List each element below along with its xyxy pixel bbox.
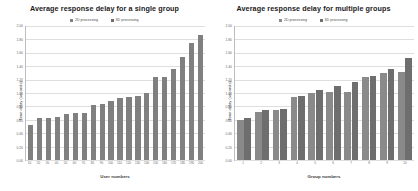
- x-axis-tick-label: 80: [88, 161, 97, 173]
- bar-group[interactable]: [98, 26, 107, 160]
- bar-group[interactable]: [196, 26, 205, 160]
- x-axis-tick-label: 8: [360, 161, 378, 173]
- bar[interactable]: [380, 73, 387, 160]
- x-axis-tick-label: 2: [252, 161, 270, 173]
- plot-canvas-2: [234, 26, 414, 161]
- bar[interactable]: [91, 105, 96, 160]
- bar[interactable]: [144, 93, 149, 160]
- x-axis-tick-label: 6: [324, 161, 342, 173]
- legend-item[interactable]: 3D processing: [320, 18, 348, 22]
- legend-item[interactable]: 3D processing: [111, 18, 139, 22]
- x-axis-tick-label: 90: [97, 161, 106, 173]
- bar[interactable]: [153, 77, 158, 160]
- bar-group[interactable]: [133, 26, 142, 160]
- bar-group[interactable]: [360, 26, 378, 160]
- bar[interactable]: [262, 110, 269, 160]
- bar-group[interactable]: [62, 26, 71, 160]
- bar[interactable]: [237, 120, 244, 160]
- bar-group[interactable]: [271, 26, 289, 160]
- x-axis-tick-label: 150: [151, 161, 160, 173]
- bar-group[interactable]: [325, 26, 343, 160]
- bar-group[interactable]: [178, 26, 187, 160]
- bar-series-2: [235, 26, 414, 160]
- bar-group[interactable]: [107, 26, 116, 160]
- bar[interactable]: [316, 90, 323, 160]
- bar[interactable]: [405, 58, 412, 160]
- bar[interactable]: [73, 113, 78, 160]
- bar-group[interactable]: [169, 26, 178, 160]
- bar[interactable]: [273, 110, 280, 160]
- bar-group[interactable]: [124, 26, 133, 160]
- bar[interactable]: [198, 35, 203, 160]
- bar[interactable]: [334, 86, 341, 160]
- bar-group[interactable]: [116, 26, 125, 160]
- bar[interactable]: [280, 109, 287, 160]
- x-axis-tick-label: 20: [34, 161, 43, 173]
- bar-group[interactable]: [53, 26, 62, 160]
- bar[interactable]: [398, 72, 405, 160]
- bar[interactable]: [189, 43, 194, 160]
- y-axis-tick-label: 0.80: [16, 105, 23, 109]
- bar[interactable]: [135, 96, 140, 160]
- bar[interactable]: [244, 118, 251, 160]
- bar[interactable]: [298, 96, 305, 160]
- bar-group[interactable]: [151, 26, 160, 160]
- plot-canvas: [25, 26, 205, 161]
- chart-legend-2: 2D processing3D processing: [209, 18, 418, 22]
- bar-group[interactable]: [253, 26, 271, 160]
- bar-group[interactable]: [71, 26, 80, 160]
- bar[interactable]: [82, 113, 87, 160]
- legend-label: 3D processing: [325, 18, 348, 22]
- bar-group[interactable]: [342, 26, 360, 160]
- bar[interactable]: [126, 97, 131, 160]
- bar[interactable]: [180, 57, 185, 160]
- bar-group[interactable]: [160, 26, 169, 160]
- bar-group[interactable]: [35, 26, 44, 160]
- x-axis-tick-label: 100: [106, 161, 115, 173]
- bar-group[interactable]: [289, 26, 307, 160]
- x-axis-tick-label: 40: [52, 161, 61, 173]
- bar-group[interactable]: [378, 26, 396, 160]
- bar-group[interactable]: [142, 26, 151, 160]
- bar-group[interactable]: [80, 26, 89, 160]
- legend-item[interactable]: 2D processing: [279, 18, 307, 22]
- bar[interactable]: [46, 118, 51, 160]
- bar-group[interactable]: [187, 26, 196, 160]
- bar[interactable]: [37, 118, 42, 160]
- bar-group[interactable]: [89, 26, 98, 160]
- bar[interactable]: [55, 117, 60, 160]
- bar[interactable]: [308, 93, 315, 160]
- bar[interactable]: [326, 92, 333, 160]
- bar-group[interactable]: [396, 26, 414, 160]
- bar[interactable]: [28, 125, 33, 160]
- page-title-2: Average response delay for multiple grou…: [209, 4, 418, 13]
- legend-swatch-icon: [320, 19, 323, 22]
- legend-swatch-icon: [111, 19, 114, 22]
- bar-group[interactable]: [235, 26, 253, 160]
- bar[interactable]: [344, 92, 351, 160]
- bar[interactable]: [388, 69, 395, 160]
- x-axis-title: User numbers: [25, 174, 205, 179]
- bar[interactable]: [117, 98, 122, 160]
- bar-group[interactable]: [44, 26, 53, 160]
- chart-panel-multiple-groups: Average response delay for multiple grou…: [209, 0, 418, 191]
- x-axis-tick-label: 200: [196, 161, 205, 173]
- bar[interactable]: [291, 97, 298, 160]
- bar[interactable]: [108, 101, 113, 160]
- bar[interactable]: [64, 114, 69, 160]
- bar[interactable]: [352, 82, 359, 160]
- bar[interactable]: [100, 104, 105, 160]
- y-axis-tick-label: 1.60: [225, 51, 232, 55]
- bar-series: [26, 26, 205, 160]
- chart-panel-single-group: Average response delay for a single grou…: [0, 0, 209, 191]
- legend-item[interactable]: 2D processing: [70, 18, 98, 22]
- x-axis-tick-label: 110: [115, 161, 124, 173]
- bar[interactable]: [362, 77, 369, 160]
- bar[interactable]: [162, 77, 167, 160]
- bar[interactable]: [370, 76, 377, 160]
- bar[interactable]: [171, 69, 176, 160]
- x-axis-tick-label: 30: [43, 161, 52, 173]
- bar-group[interactable]: [26, 26, 35, 160]
- bar-group[interactable]: [307, 26, 325, 160]
- bar[interactable]: [255, 112, 262, 160]
